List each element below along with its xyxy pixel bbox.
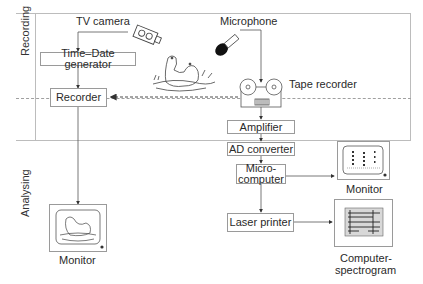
spectrogram-icon xyxy=(335,200,392,246)
ad-converter-box: AD converter xyxy=(227,142,295,156)
spectrogram-label-line1: Computer- xyxy=(340,252,392,264)
monitor-right xyxy=(337,141,390,180)
time-date-generator-box: Time–Date generator xyxy=(40,52,136,66)
microcomputer-line2: computer xyxy=(238,174,284,185)
microcomputer-box: Micro- computer xyxy=(236,164,286,184)
diagram: Recording Analysing xyxy=(0,0,423,284)
spectrogram-frame xyxy=(334,199,393,247)
monitor-left-label: Monitor xyxy=(59,254,96,266)
monitor-left xyxy=(49,204,107,252)
microphone-label: Microphone xyxy=(220,15,277,27)
recorder-box: Recorder xyxy=(50,88,107,107)
amplifier-box: Amplifier xyxy=(227,120,295,134)
monitor-right-label: Monitor xyxy=(346,183,383,195)
monitor-icon xyxy=(50,205,106,251)
laser-printer-box: Laser printer xyxy=(227,213,294,232)
monitor-icon xyxy=(338,142,389,179)
spectrogram-label-line2: spectrogram xyxy=(335,264,396,276)
tv-camera-label: TV camera xyxy=(76,15,130,27)
animals-illustration xyxy=(150,48,220,94)
tape-recorder-label: Tape recorder xyxy=(289,78,357,90)
tape-recorder-icon xyxy=(235,77,287,109)
